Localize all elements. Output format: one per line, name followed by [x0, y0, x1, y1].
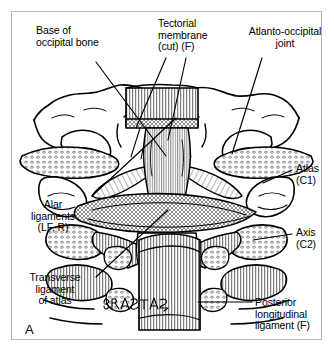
label-transverse-ligament-of-atlas: Transverse ligament of atlas [14, 272, 96, 307]
panel-letter-a: A [25, 322, 34, 337]
label-posterior-longitudinal-ligament: Posterior longitudinal ligament (F) [255, 297, 310, 332]
posterior-longitudinal-ligament [139, 234, 200, 330]
label-base-of-occipital-bone: Base of occipital bone [36, 25, 99, 48]
cruciform-ligament-column [144, 128, 191, 204]
label-atlas-c1: Atlas (C1) [296, 163, 319, 186]
label-axis-c2: Axis (C2) [296, 227, 316, 250]
anatomical-figure: Base of occipital bone Tectorial membran… [0, 0, 334, 355]
label-atlanto-occipital-joint: Atlanto-occipital joint [243, 26, 327, 49]
label-tectorial-membrane: Tectorial membrane (cut) (F) [158, 18, 207, 53]
label-alar-ligaments: Alar ligaments (LF, R) [14, 199, 92, 234]
